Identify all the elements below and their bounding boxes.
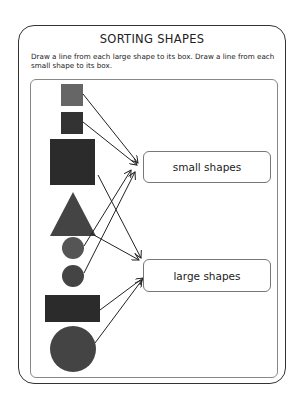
small-square-shape-2[interactable]: [61, 112, 83, 134]
large-rectangle-shape[interactable]: [45, 295, 100, 322]
large-triangle-shape[interactable]: [50, 192, 96, 236]
small-circle-shape-1[interactable]: [62, 237, 84, 259]
large-shapes-label: large shapes: [173, 270, 240, 282]
small-circle-shape-2[interactable]: [62, 265, 84, 287]
large-square-shape[interactable]: [50, 139, 95, 185]
large-shapes-box[interactable]: large shapes: [143, 259, 271, 292]
small-shapes-box[interactable]: small shapes: [143, 151, 271, 183]
large-circle-shape[interactable]: [50, 326, 96, 372]
shapes-and-lines: [0, 0, 304, 400]
small-shapes-label: small shapes: [173, 161, 241, 173]
small-square-shape-1[interactable]: [61, 84, 83, 106]
